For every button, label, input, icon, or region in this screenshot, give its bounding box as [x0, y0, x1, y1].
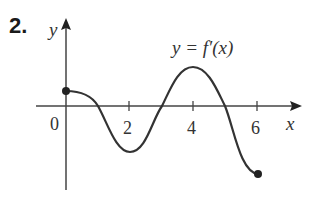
tick-label-4: 4 [187, 118, 196, 138]
end-point [254, 170, 262, 178]
tick-label-2: 2 [123, 118, 132, 138]
y-axis-label: y [47, 19, 58, 40]
curve-f-prime [66, 67, 258, 174]
tick-label-6: 6 [251, 118, 260, 138]
start-point [62, 87, 70, 95]
origin-label: 0 [50, 114, 59, 134]
curve-label: y = f′(x) [170, 37, 233, 59]
x-axis-label: x [285, 113, 295, 134]
derivative-graph: y x 0 2 4 6 y = f′(x) [0, 0, 309, 216]
